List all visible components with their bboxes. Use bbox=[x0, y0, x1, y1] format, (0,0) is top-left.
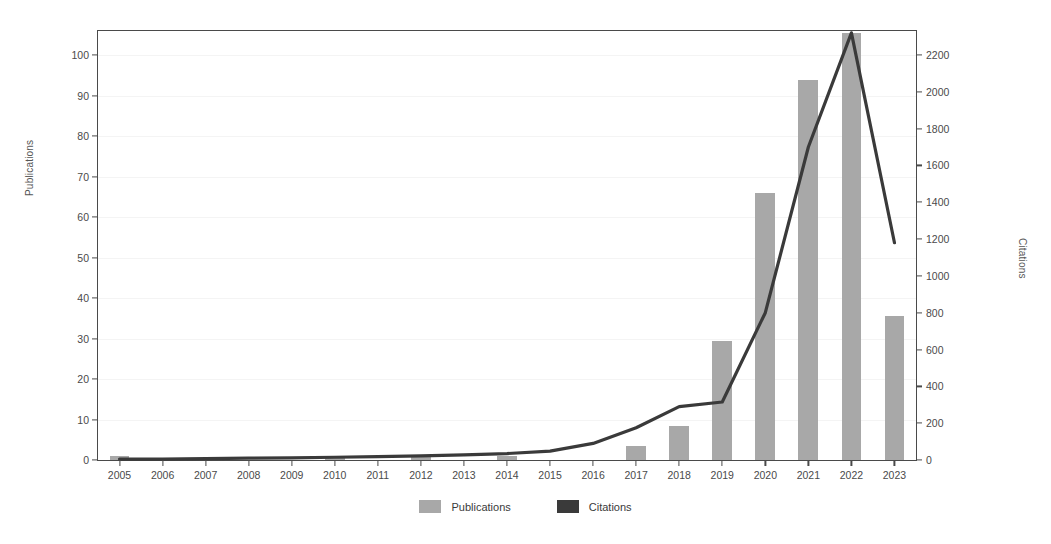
y-axis-right-title: Citations bbox=[1017, 238, 1028, 368]
y-tick-right: 800 bbox=[916, 307, 976, 319]
y-tick-right: 2200 bbox=[916, 49, 976, 61]
x-tick-2023: 2023 bbox=[864, 460, 924, 481]
citations-polyline bbox=[120, 33, 895, 459]
y-tick-left: 90 bbox=[42, 90, 98, 102]
y-tick-left: 30 bbox=[42, 333, 98, 345]
legend-swatch-icon bbox=[557, 500, 579, 513]
plot-area: 0102030405060708090100 02004006008001000… bbox=[97, 30, 917, 461]
y-tick-right: 1200 bbox=[916, 233, 976, 245]
legend-label: Citations bbox=[589, 501, 632, 513]
chart-figure: Publications Citations 01020304050607080… bbox=[0, 0, 1051, 544]
y-tick-right: 1600 bbox=[916, 159, 976, 171]
y-tick-right: 200 bbox=[916, 417, 976, 429]
y-tick-right: 400 bbox=[916, 380, 976, 392]
y-tick-right: 600 bbox=[916, 344, 976, 356]
legend-item-publications[interactable]: Publications bbox=[419, 500, 510, 513]
y-tick-right: 2000 bbox=[916, 86, 976, 98]
y-tick-left: 70 bbox=[42, 171, 98, 183]
y-tick-left: 10 bbox=[42, 414, 98, 426]
legend-swatch-icon bbox=[419, 500, 441, 513]
y-tick-right: 1800 bbox=[916, 123, 976, 135]
line-series-citations bbox=[98, 31, 916, 460]
chart-legend: PublicationsCitations bbox=[0, 500, 1051, 513]
y-tick-left: 80 bbox=[42, 130, 98, 142]
y-tick-left: 40 bbox=[42, 292, 98, 304]
y-tick-right: 1400 bbox=[916, 196, 976, 208]
y-tick-left: 100 bbox=[42, 49, 98, 61]
y-tick-right: 1000 bbox=[916, 270, 976, 282]
legend-item-citations[interactable]: Citations bbox=[557, 500, 632, 513]
y-tick-left: 20 bbox=[42, 373, 98, 385]
y-axis-left-title: Publications bbox=[24, 66, 35, 196]
y-tick-right: 0 bbox=[916, 454, 976, 466]
y-tick-left: 60 bbox=[42, 211, 98, 223]
y-tick-left: 50 bbox=[42, 252, 98, 264]
legend-label: Publications bbox=[451, 501, 510, 513]
